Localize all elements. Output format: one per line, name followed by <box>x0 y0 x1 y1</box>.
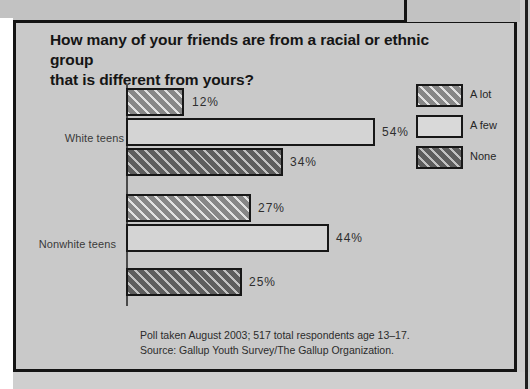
bar-white-teens-none <box>126 148 283 176</box>
value-label-white-teens-a-lot: 12% <box>192 95 219 109</box>
bar-nonwhite-teens-a-few <box>126 224 329 252</box>
value-label-white-teens-none: 34% <box>290 155 317 169</box>
chart-legend: A lot A few None <box>416 84 524 177</box>
value-label-nonwhite-teens-a-few: 44% <box>336 231 363 245</box>
legend-swatch-a-lot-icon <box>416 84 463 107</box>
source-note-line-2: Source: Gallup Youth Survey/The Gallup O… <box>140 343 470 358</box>
legend-label-none: None <box>470 150 496 162</box>
value-label-white-teens-a-few: 54% <box>382 125 409 139</box>
legend-swatch-none-icon <box>416 146 463 169</box>
value-label-nonwhite-teens-a-lot: 27% <box>258 201 285 215</box>
chart-page: How many of your friends are from a raci… <box>0 0 530 389</box>
legend-item-a-few: A few <box>416 115 524 146</box>
value-label-nonwhite-teens-none: 25% <box>249 275 276 289</box>
legend-item-none: None <box>416 146 524 177</box>
source-note-line-1: Poll taken August 2003; 517 total respon… <box>140 328 470 343</box>
chart-source-note: Poll taken August 2003; 517 total respon… <box>140 328 470 358</box>
legend-label-a-few: A few <box>470 119 497 131</box>
bar-white-teens-a-few <box>126 118 375 146</box>
bar-nonwhite-teens-a-lot <box>126 194 251 222</box>
bar-nonwhite-teens-none <box>126 268 242 296</box>
category-label-nonwhite-teens: Nonwhite teens <box>16 238 116 250</box>
bar-white-teens-a-lot <box>126 88 184 116</box>
category-label-white-teens: White teens <box>24 132 124 144</box>
legend-swatch-a-few-icon <box>416 115 463 138</box>
legend-label-a-lot: A lot <box>470 88 491 100</box>
legend-item-a-lot: A lot <box>416 84 524 115</box>
